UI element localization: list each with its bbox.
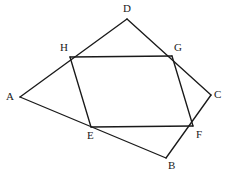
vertex-label-f: F: [196, 129, 202, 140]
vertex-label-d: D: [123, 3, 131, 14]
edge-F-E: [91, 126, 193, 127]
edge-layer: [20, 19, 211, 158]
edge-G-F: [172, 56, 193, 126]
vertex-label-g: G: [174, 42, 182, 53]
vertex-label-c: C: [214, 89, 221, 100]
edge-D-C: [127, 19, 211, 95]
edge-H-G: [70, 56, 172, 57]
geometry-figure: ABCDEFGH: [0, 0, 230, 175]
edge-E-H: [70, 57, 91, 127]
vertex-label-h: H: [60, 42, 68, 53]
figure-canvas: [0, 0, 230, 175]
vertex-label-b: B: [168, 160, 175, 171]
edge-A-D: [20, 19, 127, 97]
vertex-label-a: A: [6, 91, 14, 102]
vertex-label-e: E: [87, 130, 94, 141]
